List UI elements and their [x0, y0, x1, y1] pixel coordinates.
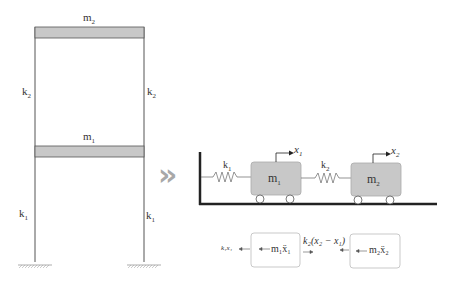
label-spring-k2: k2 [321, 160, 330, 173]
label-inertia-m2: m₂ẍ₂ [369, 245, 389, 255]
label-m2-top: m2 [83, 12, 95, 26]
diagram-graphics [0, 0, 454, 283]
label-mass-m1: m1 [268, 172, 281, 187]
label-m1-slab: m1 [83, 131, 95, 145]
label-k2-left: k2 [22, 86, 31, 100]
label-inertia-m1: m₁ẍ₁ [271, 244, 291, 254]
label-x2: x2 [391, 145, 399, 159]
label-coupling-force: k₂(x₂ − x₁) [303, 236, 345, 246]
label-k2-right: k2 [147, 86, 156, 100]
label-x1: x1 [294, 144, 302, 158]
label-k1-left: k1 [19, 208, 28, 222]
label-mass-m2: m2 [367, 173, 380, 188]
label-k1-right: k1 [146, 210, 155, 224]
label-spring-k1: k1 [223, 160, 232, 173]
label-force-k1x1: k₁x₁ [221, 245, 232, 252]
transform-arrow-icon: » [158, 160, 177, 190]
